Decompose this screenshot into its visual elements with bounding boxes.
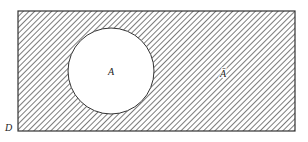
set-a-label: A xyxy=(107,66,115,77)
complement-label: Ā xyxy=(219,68,227,79)
complement-region xyxy=(18,11,295,131)
universe-label: D xyxy=(4,122,13,133)
venn-diagram: A Ā D xyxy=(0,0,308,142)
